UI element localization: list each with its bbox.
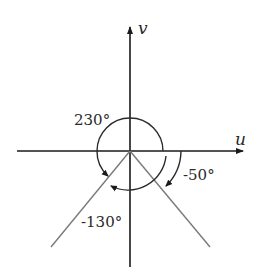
v-axis-label: v <box>138 18 148 38</box>
angle-diagram: v u 230° -130° -50° <box>0 0 256 273</box>
angle-label-minus-130: -130° <box>81 213 122 231</box>
angle-label-230: 230° <box>74 111 110 129</box>
angle-label-minus-50: -50° <box>183 166 215 184</box>
arc-minus-50 <box>166 151 181 186</box>
ray-230 <box>51 151 130 247</box>
u-axis-label: u <box>235 129 246 149</box>
